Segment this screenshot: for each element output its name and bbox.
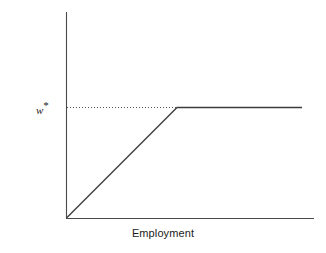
w-star-tick-label: w*	[36, 100, 49, 116]
chart-figure: Wage Employment w*	[0, 0, 326, 253]
labor-supply-curve	[67, 108, 302, 218]
w-star-superscript: *	[43, 99, 49, 111]
chart-plot-area	[0, 0, 326, 253]
x-axis-label: Employment	[0, 228, 326, 239]
